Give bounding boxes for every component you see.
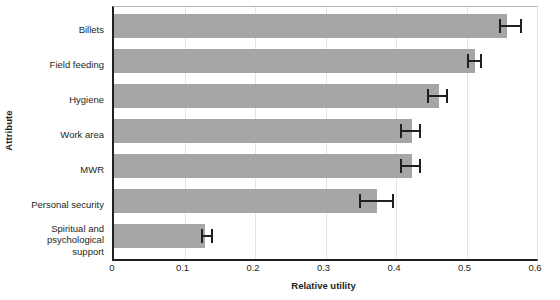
error-bar-cap-high <box>211 229 213 243</box>
x-tick-label: 0.4 <box>387 262 400 273</box>
error-bar-cap-high <box>446 89 448 103</box>
error-bar-line <box>359 200 394 202</box>
error-bar-line <box>427 95 448 97</box>
category-label-line: Personal security <box>12 199 104 211</box>
bar <box>114 84 439 108</box>
error-bar <box>467 49 483 73</box>
bar <box>114 189 377 213</box>
error-bar-cap-high <box>480 54 482 68</box>
category-label-line: Field feeding <box>12 59 104 71</box>
bar <box>114 224 205 248</box>
x-axis-ticks: 00.10.20.30.40.50.6 <box>112 262 535 276</box>
bar <box>114 14 507 38</box>
bar <box>114 119 412 143</box>
gridline <box>537 7 538 259</box>
bar <box>114 154 412 178</box>
category-label-line: psychological <box>12 234 104 246</box>
category-label: Spiritual andpsychologicalsupport <box>12 223 104 258</box>
x-tick-label: 0.6 <box>528 262 541 273</box>
error-bar-cap-low <box>201 229 203 243</box>
category-label-line: Work area <box>12 129 104 141</box>
error-bar-cap-high <box>419 124 421 138</box>
error-bar-cap-high <box>392 194 394 208</box>
error-bar <box>427 84 448 108</box>
category-label-line: Hygiene <box>12 94 104 106</box>
category-label: Work area <box>12 129 104 141</box>
category-label: Billets <box>12 24 104 36</box>
error-bar-cap-low <box>400 159 402 173</box>
x-tick-label: 0.3 <box>317 262 330 273</box>
x-tick-label: 0 <box>109 262 114 273</box>
plot-area <box>112 6 538 261</box>
error-bar-cap-low <box>499 19 501 33</box>
gridline <box>467 7 468 259</box>
bar-chart: Attribute BilletsField feedingHygieneWor… <box>0 0 560 300</box>
error-bar-cap-low <box>427 89 429 103</box>
category-axis-labels: BilletsField feedingHygieneWork areaMWRP… <box>16 12 108 258</box>
error-bar-cap-high <box>520 19 522 33</box>
error-bar <box>400 119 421 143</box>
category-label-line: MWR <box>12 164 104 176</box>
x-tick-label: 0.1 <box>176 262 189 273</box>
error-bar-line <box>400 165 421 167</box>
error-bar-cap-low <box>467 54 469 68</box>
category-label: Field feeding <box>12 59 104 71</box>
error-bar-cap-high <box>419 159 421 173</box>
category-label-line: support <box>12 246 104 258</box>
error-bar-cap-low <box>359 194 361 208</box>
error-bar <box>499 14 522 38</box>
error-bar-line <box>499 25 522 27</box>
category-label: Personal security <box>12 199 104 211</box>
error-bar-cap-low <box>400 124 402 138</box>
error-bar-line <box>400 130 421 132</box>
category-label: MWR <box>12 164 104 176</box>
category-label-line: Spiritual and <box>12 223 104 235</box>
x-axis-title: Relative utility <box>112 280 535 291</box>
category-label-line: Billets <box>12 24 104 36</box>
x-tick-label: 0.2 <box>246 262 259 273</box>
bar <box>114 49 475 73</box>
error-bar <box>359 189 394 213</box>
category-label: Hygiene <box>12 94 104 106</box>
error-bar <box>201 224 213 248</box>
x-tick-label: 0.5 <box>458 262 471 273</box>
error-bar <box>400 154 421 178</box>
